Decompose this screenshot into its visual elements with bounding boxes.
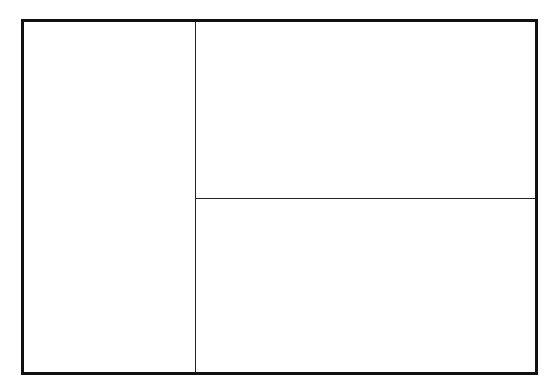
top-right-panel	[196, 22, 535, 199]
outer-frame	[21, 19, 538, 375]
left-panel	[24, 22, 196, 372]
bottom-right-panel	[196, 199, 535, 372]
